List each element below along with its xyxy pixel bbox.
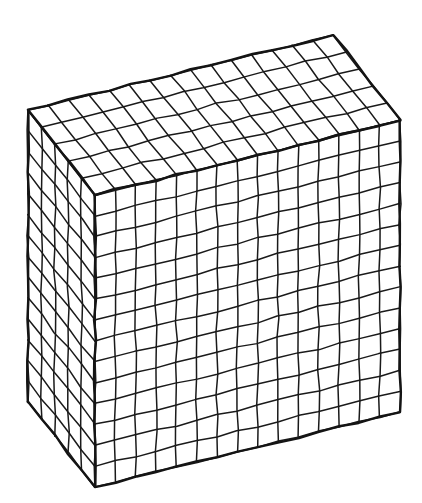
face-fill-group: [28, 35, 400, 487]
cuboid-diagram: Isometric grid cuboid line drawing A han…: [0, 0, 422, 503]
figure-root: Isometric grid cuboid line drawing A han…: [0, 0, 422, 503]
